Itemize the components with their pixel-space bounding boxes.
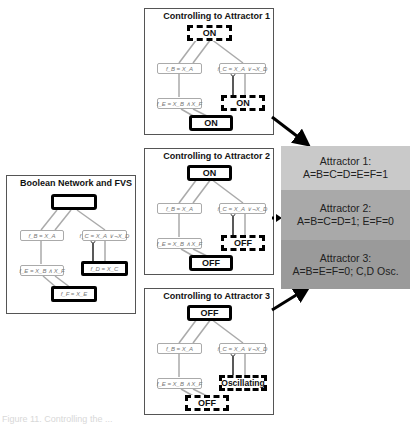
function-b: f_B = X_A: [157, 63, 202, 74]
attractor-label: Attractor 2:: [281, 202, 410, 215]
function-b: f_B = X_A: [157, 203, 202, 214]
node-label: ON: [204, 118, 218, 128]
panel-attractor-1: Controlling to Attractor 1 ON f_B = X_A …: [144, 8, 274, 135]
attractor-1-box: Attractor 1: A=B=C=D=E=F=1: [281, 146, 410, 190]
node-label: ON: [236, 98, 250, 108]
node-d-control: Oscillating: [219, 375, 267, 391]
node-label: ON: [203, 168, 217, 178]
node-label: OFF: [202, 258, 220, 268]
attractor-state: A=B=C=D=E=F=1: [281, 168, 410, 181]
attractor-state: A=B=C=D=1; E=F=0: [281, 215, 410, 228]
node-label: OFF: [234, 238, 252, 248]
function-e: f_E = X_B ∧ X_F: [157, 378, 202, 389]
function-c: f_C = X_A ∨ ¬X_D: [219, 203, 266, 214]
node-f-state: OFF: [189, 255, 233, 271]
panel-attractor-2: Controlling to Attractor 2 ON f_B = X_A …: [144, 148, 274, 275]
arrow-to-attractor-3: [272, 289, 306, 310]
figure-caption: Figure 11. Controlling the ...: [2, 414, 112, 424]
attractor-label: Attractor 3:: [281, 252, 410, 265]
node-a-control: ON: [187, 165, 232, 181]
function-d-fvs: f_D = X_C: [81, 261, 128, 276]
panel-attractor-3: Controlling to Attractor 3 OFF f_B = X_A…: [144, 288, 274, 415]
function-b: f_B = X_A: [20, 230, 64, 241]
node-a-fvs: [51, 194, 97, 210]
attractor-3-box: Attractor 3: A=B=E=F=0; C,D Osc.: [281, 240, 410, 289]
node-a-control: OFF: [187, 305, 232, 321]
node-label: Oscillating: [221, 378, 264, 388]
node-f-state: OFF: [185, 395, 229, 411]
panel-boolean-network: Boolean Network and FVS f_B = X_A f_C = …: [6, 175, 136, 314]
node-label: OFF: [198, 398, 216, 408]
attractor-state: A=B=E=F=0; C,D Osc.: [281, 265, 410, 278]
node-d-control: ON: [221, 95, 265, 111]
node-d-control: OFF: [221, 235, 265, 251]
panel-title: Controlling to Attractor 1: [163, 11, 270, 21]
function-b: f_B = X_A: [157, 343, 202, 354]
node-label: ON: [203, 28, 217, 38]
function-f-fvs: f_F = X_E: [51, 286, 97, 302]
function-e: f_E = X_B ∧ X_F: [157, 98, 202, 109]
node-label: OFF: [201, 308, 219, 318]
function-c: f_C = X_A ∨ ¬X_D: [82, 230, 127, 241]
arrow-to-attractor-1: [272, 117, 306, 143]
panel-title: Controlling to Attractor 2: [163, 151, 270, 161]
function-c: f_C = X_A ∨ ¬X_D: [219, 63, 266, 74]
node-a-control: ON: [187, 25, 232, 41]
attractor-2-box: Attractor 2: A=B=C=D=1; E=F=0: [281, 190, 410, 240]
function-e: f_E = X_B ∧ X_F: [157, 238, 202, 249]
function-c: f_C = X_A ∨ ¬X_D: [219, 343, 266, 354]
node-f-state: ON: [189, 115, 233, 131]
function-e: f_E = X_B ∧ X_F: [20, 265, 64, 276]
attractor-label: Attractor 1:: [281, 155, 410, 168]
panel-title: Boolean Network and FVS: [20, 178, 132, 188]
panel-title: Controlling to Attractor 3: [163, 291, 270, 301]
